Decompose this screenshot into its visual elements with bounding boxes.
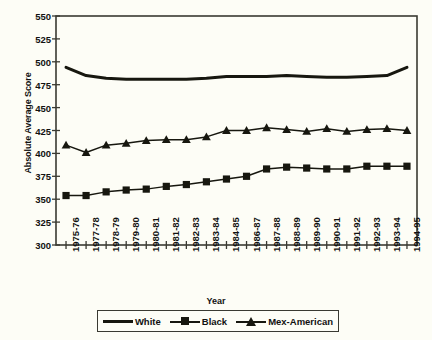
x-tick-label: 1988-89 — [291, 217, 302, 252]
legend-item: White — [103, 316, 161, 327]
x-tick-label: 1981-82 — [170, 217, 181, 252]
x-tick-label: 1991-92 — [351, 217, 362, 252]
chart-legend: WhiteBlackMex-American — [97, 310, 339, 332]
marker-square — [163, 183, 170, 190]
x-tick-label: 1993-94 — [391, 217, 402, 252]
legend-item: Black — [170, 316, 227, 327]
marker-square — [263, 165, 270, 172]
x-tick-label: 1983-84 — [210, 217, 221, 252]
legend-label: Black — [202, 316, 227, 327]
marker-square — [303, 164, 310, 171]
legend-symbol-none — [103, 316, 133, 327]
legend-symbol-triangle — [236, 316, 266, 327]
x-tick-label: 1986-87 — [251, 217, 262, 252]
x-tick-label: 1992-93 — [371, 217, 382, 252]
plot-area — [0, 0, 432, 340]
marker-square — [383, 163, 390, 170]
marker-square — [183, 181, 190, 188]
legend-label: White — [135, 316, 161, 327]
marker-square — [243, 173, 250, 180]
marker-square — [343, 165, 350, 172]
legend-label: Mex-American — [268, 316, 333, 327]
series-line-black — [66, 166, 407, 195]
marker-square — [82, 192, 89, 199]
x-tick-label: 1994-95 — [411, 217, 422, 252]
x-tick-label: 1984-85 — [230, 217, 241, 252]
marker-square — [123, 186, 130, 193]
x-tick-label: 1980-81 — [150, 217, 161, 252]
marker-square — [403, 163, 410, 170]
marker-square — [283, 164, 290, 171]
marker-square — [103, 188, 110, 195]
marker-triangle — [62, 141, 71, 149]
marker-square — [223, 175, 230, 182]
x-tick-label: 1977-78 — [90, 217, 101, 252]
legend-symbol-square — [170, 316, 200, 327]
chart-container: Absolute Average Score Year 300325350375… — [0, 0, 432, 340]
marker-square — [203, 178, 210, 185]
marker-square — [363, 163, 370, 170]
x-tick-label: 1979-80 — [130, 217, 141, 252]
series-line-white — [66, 67, 407, 79]
x-tick-label: 1975-76 — [70, 217, 81, 252]
marker-triangle — [262, 123, 271, 131]
marker-square — [143, 186, 150, 193]
marker-square — [323, 165, 330, 172]
x-tick-label: 1990-91 — [331, 217, 342, 252]
x-tick-label: 1978-79 — [110, 217, 121, 252]
marker-square — [62, 192, 69, 199]
x-tick-label: 1987-88 — [271, 217, 282, 252]
legend-item: Mex-American — [236, 316, 333, 327]
x-tick-label: 1982-83 — [190, 217, 201, 252]
series-line-mex-american — [66, 128, 407, 153]
x-tick-label: 1989-90 — [311, 217, 322, 252]
marker-triangle — [322, 124, 331, 132]
